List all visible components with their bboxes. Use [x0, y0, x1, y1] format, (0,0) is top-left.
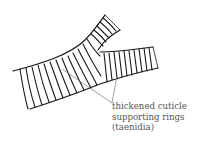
annotation-label: thickened cuticle supporting rings (taen…: [112, 101, 187, 133]
upper-wall: [13, 15, 105, 71]
trachea-tube: [13, 15, 158, 109]
pointer-line-left: [62, 69, 112, 103]
upper-branch-inner-wall: [98, 30, 120, 50]
annotation-line-1: thickened cuticle: [112, 101, 187, 112]
right-branch-top-wall: [100, 47, 153, 52]
annotation-line-2: supporting rings: [112, 112, 187, 123]
right-branch-end: [153, 47, 158, 68]
annotation-line-3: (taenidia): [112, 122, 187, 133]
